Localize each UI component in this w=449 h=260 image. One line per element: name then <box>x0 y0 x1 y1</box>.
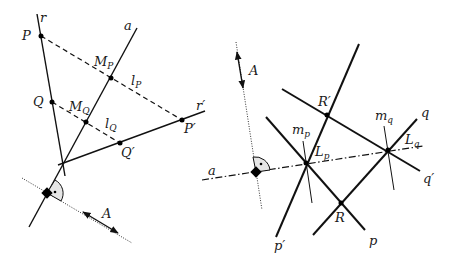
arrow-A-right <box>237 52 243 88</box>
point-P <box>39 34 44 39</box>
label-P: P <box>21 28 31 43</box>
reflection-diagram: r a P Q MP MQ lP lQ r′ P′ Q′ A <box>0 0 449 260</box>
label-P-prime: P′ <box>183 121 196 136</box>
left-figure: r a P Q MP MQ lP lQ r′ P′ Q′ A <box>21 10 205 243</box>
point-Q <box>50 100 55 105</box>
right-angle-dot <box>54 191 57 194</box>
label-A-right: A <box>248 63 258 78</box>
line-m-q <box>384 126 394 190</box>
label-q-prime: q′ <box>423 171 434 186</box>
label-p-prime: p′ <box>274 238 285 253</box>
line-q <box>313 119 417 235</box>
label-m-p: mp <box>292 122 310 139</box>
label-q: q <box>421 105 429 120</box>
line-p <box>266 117 365 230</box>
point-M-P <box>109 76 114 81</box>
label-r: r <box>40 10 47 25</box>
point-R <box>339 201 344 206</box>
label-L-q: Lq <box>404 132 420 149</box>
point-M-Q <box>84 120 89 125</box>
label-l-P: lP <box>131 73 142 90</box>
label-A-left: A <box>101 206 111 221</box>
label-a-right: a <box>208 163 216 178</box>
point-R-prime <box>325 113 330 118</box>
label-M-P: MP <box>93 54 114 71</box>
point-L-q <box>386 148 391 153</box>
label-r-prime: r′ <box>196 98 205 113</box>
right-figure: A a R′ R mp mq Lp Lq q q′ p p′ <box>202 42 434 253</box>
label-R: R <box>334 210 345 225</box>
label-l-Q: lQ <box>105 116 117 133</box>
label-p: p <box>369 233 378 248</box>
right-angle-dot-right <box>260 163 263 166</box>
arrow-A <box>83 212 118 233</box>
label-Q: Q <box>33 94 44 109</box>
label-L-p: Lp <box>314 144 330 161</box>
label-Q-prime: Q′ <box>121 145 135 160</box>
point-L-p <box>304 161 309 166</box>
label-R-prime: R′ <box>317 94 331 109</box>
label-m-q: mq <box>375 108 393 125</box>
label-a: a <box>124 18 132 33</box>
label-M-Q: MQ <box>68 99 90 116</box>
